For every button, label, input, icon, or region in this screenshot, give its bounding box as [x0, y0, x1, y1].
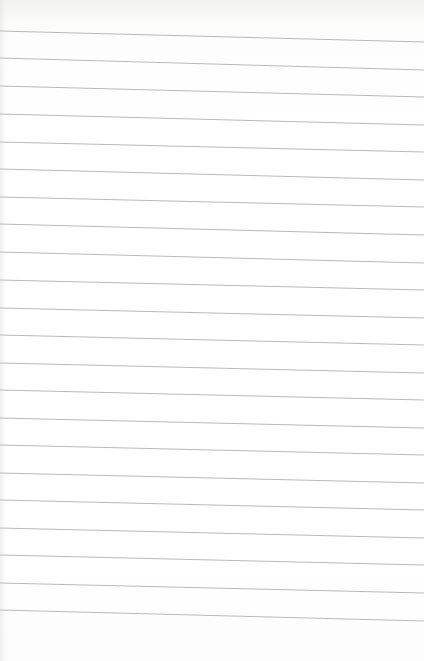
ruled-line	[0, 308, 424, 318]
ruled-line	[0, 473, 424, 483]
ruled-line	[0, 528, 424, 538]
ruled-line	[0, 555, 424, 565]
ruled-line	[0, 500, 424, 510]
ruled-line	[0, 224, 424, 235]
ruled-lines	[0, 0, 424, 661]
ruled-line	[0, 31, 424, 42]
ruled-line	[0, 610, 424, 621]
ruled-line	[0, 390, 424, 400]
ruled-line	[0, 58, 424, 70]
ruled-line	[0, 363, 424, 373]
ruled-line	[0, 114, 424, 125]
ruled-line	[0, 197, 424, 207]
ruled-line	[0, 445, 424, 455]
ruled-line	[0, 280, 424, 290]
ruled-line	[0, 86, 424, 97]
ruled-line	[0, 169, 424, 180]
ruled-line	[0, 335, 424, 345]
ruled-line	[0, 142, 424, 152]
lined-paper-sheet	[0, 0, 424, 661]
ruled-line	[0, 583, 424, 593]
ruled-line	[0, 252, 424, 263]
ruled-line	[0, 418, 424, 428]
